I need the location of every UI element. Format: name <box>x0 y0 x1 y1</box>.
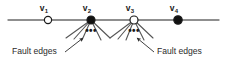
ellipsis-marker: ••• <box>128 25 140 36</box>
annotation-leader-arrow <box>137 38 154 52</box>
vertex-label-v3: v3 <box>126 3 135 14</box>
annotation-caption: Fault edges <box>157 46 202 56</box>
fault-edges-fan-group <box>66 20 153 40</box>
diagram-canvas: •••••• v1v2v3v4 Fault edgesFault edges <box>0 0 227 64</box>
fault-edges-graph-figure: •••••• v1v2v3v4 Fault edgesFault edges <box>0 0 227 64</box>
vertex-label-v2: v2 <box>83 3 92 14</box>
vertex-node-v3 <box>130 16 138 24</box>
annotation-caption: Fault edges <box>12 46 57 56</box>
vertex-node-v1 <box>44 16 51 23</box>
vertex-label-v4: v4 <box>170 3 179 14</box>
vertex-label-group: v1v2v3v4 <box>40 3 179 14</box>
ellipsis-marker: ••• <box>85 25 97 36</box>
vertex-node-v2 <box>87 16 95 24</box>
vertex-node-v4 <box>174 16 182 24</box>
ellipsis-group: •••••• <box>85 25 140 36</box>
vertex-label-v1: v1 <box>40 3 49 14</box>
fault-edges-label-right: Fault edges <box>137 38 202 56</box>
annotation-group: Fault edgesFault edges <box>12 38 202 56</box>
fault-edges-label-left: Fault edges <box>12 38 83 56</box>
annotation-leader-arrow <box>65 38 83 52</box>
